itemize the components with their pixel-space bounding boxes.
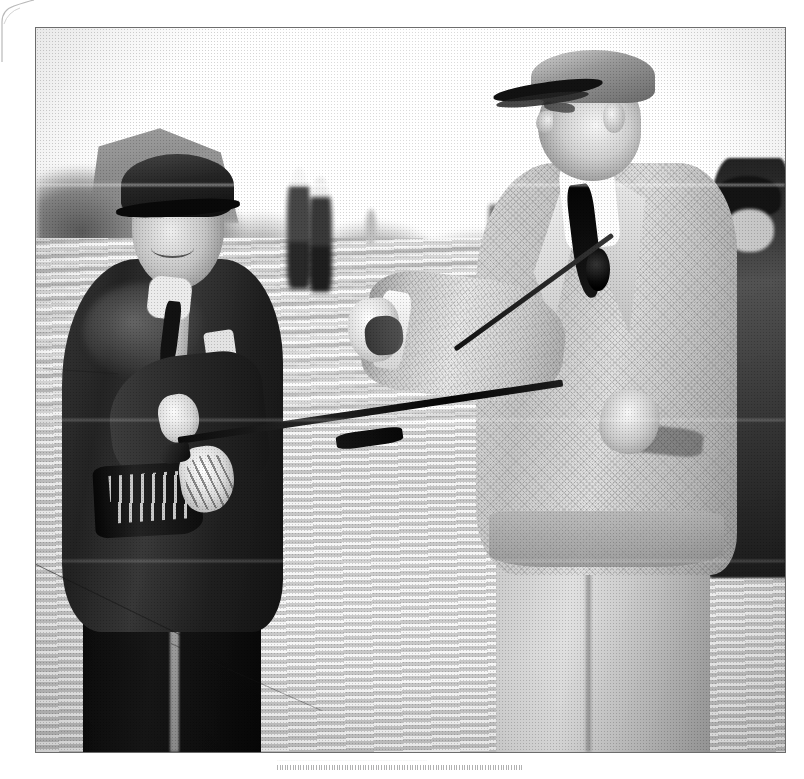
golfer-jacket-hem bbox=[489, 511, 723, 568]
background-figure-e bbox=[366, 209, 376, 245]
photograph-content bbox=[36, 28, 785, 752]
golfer-ear bbox=[603, 101, 625, 133]
caption-text: ········································… bbox=[277, 758, 523, 763]
scanned-page: ········································… bbox=[0, 0, 804, 779]
photograph bbox=[35, 27, 786, 753]
caddie-smile bbox=[151, 238, 194, 258]
caption-dotted-rule bbox=[277, 765, 523, 770]
golfer-nose bbox=[536, 111, 553, 134]
print-crease-upper bbox=[36, 184, 785, 186]
golfer-hand-shadow bbox=[364, 314, 405, 356]
print-crease-lower bbox=[36, 560, 785, 562]
print-crease-middle bbox=[36, 419, 785, 421]
golfer-figure bbox=[448, 42, 785, 752]
